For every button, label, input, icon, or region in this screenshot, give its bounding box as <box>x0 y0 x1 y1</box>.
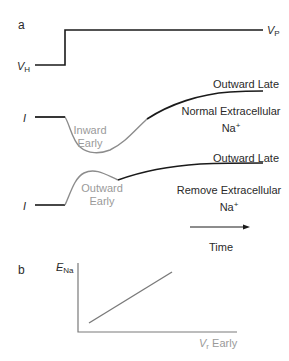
inward-early-label-line1: Inward <box>73 124 106 136</box>
holding-voltage-sub: H <box>24 65 30 74</box>
panel-b-x-rest: Early <box>209 337 237 349</box>
removed-condition-ion: Na <box>220 201 234 213</box>
outward-early-label-line1: Outward <box>81 182 123 194</box>
step-voltage-sub: P <box>274 29 279 38</box>
panel-b-label: b <box>18 264 25 276</box>
normal-condition-ion: Na <box>222 122 236 134</box>
figure-canvas <box>0 0 289 361</box>
removed-condition-line1: Remove Extracellular <box>177 184 282 196</box>
outward-early-label-line2: Early <box>89 195 114 207</box>
outward-late-label-normal: Outward Late <box>213 78 279 90</box>
normal-condition-charge: + <box>236 121 241 130</box>
removed-condition-line2: Na+ <box>220 199 239 213</box>
voltage-step-trace <box>35 30 263 65</box>
removed-condition-charge: + <box>234 200 239 209</box>
panel-b-y-axis-label: ENa <box>56 261 74 277</box>
inward-early-label-line2: Early <box>77 137 102 149</box>
panel-b-relation-line <box>89 272 172 323</box>
current-label-normal: I <box>23 112 26 124</box>
holding-voltage-label: VH <box>17 60 30 76</box>
panel-b-x-axis-label: Vr Early <box>199 337 237 353</box>
step-voltage-label: VP <box>267 24 280 40</box>
panel-b-axes <box>78 263 237 332</box>
time-axis-label: Time <box>209 241 233 253</box>
normal-condition-line1: Normal Extracellular <box>181 105 280 117</box>
current-trace-removed-late <box>118 163 263 180</box>
normal-condition-line2: Na+ <box>222 120 241 134</box>
panel-b-y-sub: Na <box>63 266 73 275</box>
outward-late-label-removed: Outward Late <box>213 152 279 164</box>
time-arrow-head-icon <box>243 225 250 230</box>
current-label-removed: I <box>23 200 26 212</box>
panel-a-label: a <box>18 19 25 31</box>
